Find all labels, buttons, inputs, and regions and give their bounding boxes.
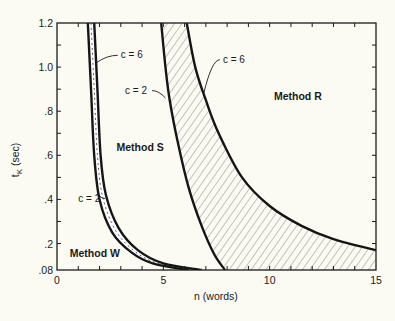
y-tick-label: .6 <box>44 149 53 161</box>
y-axis-title: tK (sec) <box>9 143 24 178</box>
y-tick-label: .2 <box>44 238 53 250</box>
annotation-label: c = 2 <box>125 85 147 96</box>
annotation-leader <box>152 91 165 98</box>
y-tick-label: 1.2 <box>38 17 53 29</box>
y-tick-label: .08 <box>38 264 53 276</box>
annotation-label: c = 6 <box>121 49 143 60</box>
y-tick-label: .8 <box>44 105 53 117</box>
y-tick-label: .4 <box>44 193 53 205</box>
region-label: Method R <box>274 90 322 102</box>
annotation-label: c = 6 <box>223 54 245 65</box>
region-label: Method S <box>117 141 164 153</box>
chart: 051015.08.2.4.6.81.01.2 c = 6c = 2c = 2c… <box>0 0 395 321</box>
annotation-label: c = 2 <box>78 193 100 204</box>
svg-text:tK (sec): tK (sec) <box>9 143 24 178</box>
x-tick-label: 0 <box>54 274 60 286</box>
x-tick-label: 10 <box>264 274 276 286</box>
annotation-leader <box>96 55 117 62</box>
x-tick-label: 15 <box>370 274 382 286</box>
x-axis-title: n (words) <box>194 290 238 302</box>
y-tick-label: 1.0 <box>38 61 53 73</box>
x-tick-label: 5 <box>160 274 166 286</box>
region-label: Method W <box>70 247 120 259</box>
annotation-leader <box>204 60 220 94</box>
